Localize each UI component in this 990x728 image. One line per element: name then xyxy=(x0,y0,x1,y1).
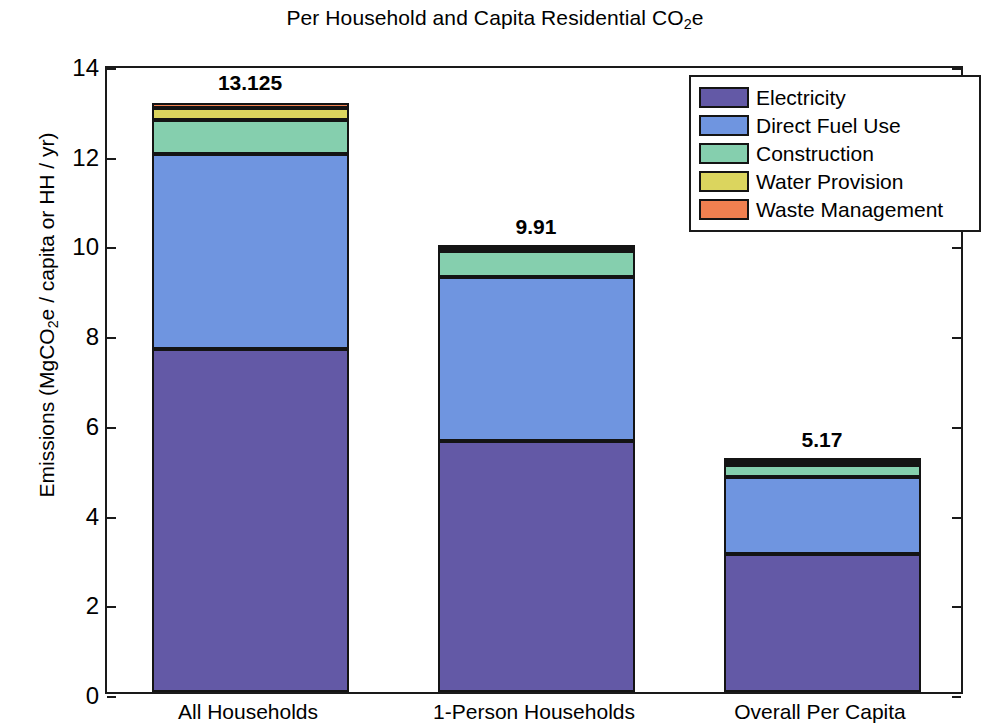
y-axis-tick-label: 4 xyxy=(86,505,99,529)
legend-color-swatch xyxy=(699,87,749,108)
bar-stack[interactable]: 13.125 xyxy=(152,64,349,692)
legend-item-label: Direct Fuel Use xyxy=(756,115,901,136)
y-axis-title-post: e / capita or HH / yr) xyxy=(35,132,58,320)
chart-figure: Per Household and Capita Residential CO2… xyxy=(0,0,990,728)
y-axis-tick-mark xyxy=(107,427,116,429)
legend-item[interactable]: Waste Management xyxy=(699,195,973,223)
legend-color-swatch xyxy=(699,115,749,136)
bar-segment-direct-fuel-use[interactable] xyxy=(724,477,921,554)
bar-segment-waste-management[interactable] xyxy=(152,103,349,108)
legend-item[interactable]: Electricity xyxy=(699,83,973,111)
y-axis-tick-mark xyxy=(107,158,116,160)
y-axis-title-pre: Emissions (MgCO xyxy=(35,328,58,497)
bar-total-label: 9.91 xyxy=(516,215,557,239)
y-axis-tick-label: 6 xyxy=(86,415,99,439)
y-axis-title-wrapper: Emissions (MgCO2e / capita or HH / yr) xyxy=(35,0,65,645)
legend-color-swatch xyxy=(699,143,749,164)
legend-item-label: Construction xyxy=(756,143,874,164)
y-axis-tick-label: 0 xyxy=(86,684,99,708)
y-axis-tick-mark-right xyxy=(952,337,961,339)
bar-total-label: 13.125 xyxy=(218,71,282,95)
chart-title-pre: Per Household and Capita Residential CO xyxy=(286,6,683,29)
legend-item-label: Electricity xyxy=(756,87,846,108)
bar-segment-direct-fuel-use[interactable] xyxy=(152,154,349,349)
bar-segment-electricity[interactable] xyxy=(724,554,921,692)
bar-segment-waste-management[interactable] xyxy=(724,458,921,462)
chart-title-post: e xyxy=(692,6,704,29)
x-axis-tick-label: All Households xyxy=(178,700,318,724)
y-axis-tick-mark xyxy=(107,606,116,608)
y-axis-tick-mark-right xyxy=(952,247,961,249)
y-axis-tick-mark-right xyxy=(952,68,961,70)
bar-stack[interactable]: 9.91 xyxy=(438,64,635,692)
y-axis-tick-mark-right xyxy=(952,517,961,519)
y-axis-tick-mark-right xyxy=(952,696,961,698)
legend-item-label: Water Provision xyxy=(756,171,903,192)
bar-segment-direct-fuel-use[interactable] xyxy=(438,277,635,441)
chart-legend: ElectricityDirect Fuel UseConstructionWa… xyxy=(689,75,981,232)
x-axis-tick-label: Overall Per Capita xyxy=(734,700,906,724)
legend-color-swatch xyxy=(699,171,749,192)
bar-total-label: 5.17 xyxy=(802,428,843,452)
bar-segment-construction[interactable] xyxy=(724,465,921,477)
y-axis-tick-mark xyxy=(107,247,116,249)
legend-item[interactable]: Construction xyxy=(699,139,973,167)
chart-title-subscript: 2 xyxy=(684,16,692,32)
y-axis-tick-mark xyxy=(107,517,116,519)
y-axis-tick-mark-right xyxy=(952,606,961,608)
legend-item[interactable]: Direct Fuel Use xyxy=(699,111,973,139)
y-axis-tick-label: 2 xyxy=(86,594,99,618)
y-axis-tick-mark xyxy=(107,337,116,339)
y-axis-tick-label: 10 xyxy=(72,235,99,259)
bar-segment-construction[interactable] xyxy=(438,251,635,277)
y-axis-tick-label: 12 xyxy=(72,146,99,170)
y-axis-tick-mark-right xyxy=(952,427,961,429)
chart-title: Per Household and Capita Residential CO2… xyxy=(0,6,990,30)
legend-color-swatch xyxy=(699,199,749,220)
x-axis-tick-label: 1-Person Households xyxy=(433,700,635,724)
bar-segment-waste-management[interactable] xyxy=(438,245,635,249)
legend-item-label: Waste Management xyxy=(756,199,943,220)
bar-segment-electricity[interactable] xyxy=(438,441,635,692)
y-axis-title-subscript: 2 xyxy=(45,320,61,328)
bar-segment-electricity[interactable] xyxy=(152,349,349,692)
bar-segment-water-provision[interactable] xyxy=(152,108,349,120)
y-axis-tick-mark xyxy=(107,68,116,70)
y-axis-title: Emissions (MgCO2e / capita or HH / yr) xyxy=(35,132,58,497)
legend-item[interactable]: Water Provision xyxy=(699,167,973,195)
y-axis-tick-label: 8 xyxy=(86,325,99,349)
y-axis-tick-label: 14 xyxy=(72,56,99,80)
bar-segment-construction[interactable] xyxy=(152,120,349,154)
y-axis-tick-mark xyxy=(107,696,116,698)
